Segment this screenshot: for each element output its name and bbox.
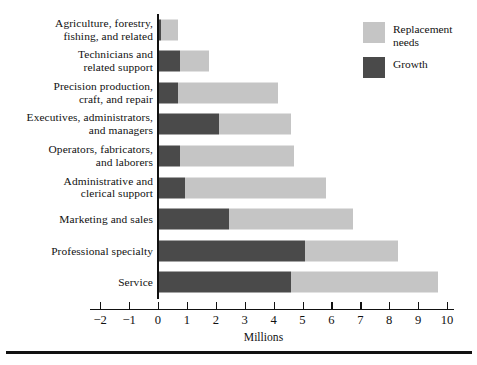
- x-axis-tick-label: 9: [403, 313, 433, 328]
- x-axis-tick: [158, 302, 159, 309]
- x-axis-tick: [360, 302, 361, 309]
- chart-bar-row: Executives, administrators, and managers: [0, 109, 477, 141]
- stacked-bar: [158, 114, 291, 135]
- x-axis-tick: [418, 302, 419, 309]
- bar-segment-growth: [158, 177, 185, 198]
- x-axis-tick: [245, 302, 246, 309]
- bar-segment-replacement-needs: [180, 146, 294, 167]
- x-axis-tick-label: 8: [374, 313, 404, 328]
- bar-segment-replacement-needs: [178, 82, 278, 103]
- category-label: Executives, administrators, and managers: [27, 112, 153, 138]
- x-axis-tick-label: −1: [114, 313, 144, 328]
- stacked-bar: [158, 209, 353, 230]
- chart-bar-row: Operators, fabricators, and laborers: [0, 140, 477, 172]
- stacked-bar: [158, 82, 278, 103]
- x-axis-tick-label: 6: [316, 313, 346, 328]
- bar-segment-replacement-needs: [291, 272, 438, 293]
- x-axis-tick: [331, 302, 332, 309]
- stacked-bar: [158, 51, 209, 72]
- bar-segment-growth: [158, 82, 178, 103]
- x-axis-tick: [216, 302, 217, 309]
- bar-segment-growth: [158, 272, 291, 293]
- legend-swatch-replacement: [363, 22, 385, 43]
- category-label: Administrative and clerical support: [64, 175, 153, 201]
- category-label: Professional specialty: [51, 244, 153, 257]
- x-axis-tick: [129, 302, 130, 309]
- x-axis-tick-label: −2: [85, 313, 115, 328]
- x-axis-tick: [447, 302, 448, 309]
- bar-segment-growth: [158, 114, 219, 135]
- category-label: Technicians and related support: [78, 49, 153, 75]
- x-axis-tick-label: 10: [432, 313, 462, 328]
- bar-segment-growth: [158, 240, 305, 261]
- stacked-bar: [158, 19, 178, 40]
- x-axis-tick: [303, 302, 304, 309]
- legend-swatch-growth: [363, 57, 385, 78]
- category-label: Agriculture, forestry, fishing, and rela…: [55, 17, 153, 43]
- category-label: Operators, fabricators, and laborers: [49, 143, 153, 169]
- x-axis-tick: [274, 302, 275, 309]
- legend-label: Replacement needs: [393, 22, 452, 48]
- x-axis-tick-label: 3: [230, 313, 260, 328]
- x-axis-tick: [389, 302, 390, 309]
- x-axis-tick-label: 5: [288, 313, 318, 328]
- y-axis-line: [157, 14, 159, 299]
- x-axis-tick-label: 4: [259, 313, 289, 328]
- chart-bar-row: Marketing and sales: [0, 203, 477, 235]
- x-axis-tick: [187, 302, 188, 309]
- chart-bar-row: Service: [0, 266, 477, 298]
- bar-segment-replacement-needs: [305, 240, 397, 261]
- chart-legend: Replacement needsGrowth: [363, 22, 473, 87]
- category-label: Service: [118, 276, 153, 289]
- stacked-bar: [158, 146, 294, 167]
- category-label: Marketing and sales: [59, 213, 153, 226]
- legend-item: Replacement needs: [363, 22, 473, 48]
- bar-segment-replacement-needs: [185, 177, 325, 198]
- bar-segment-replacement-needs: [180, 51, 209, 72]
- x-axis-tick-label: 1: [172, 313, 202, 328]
- x-axis-tick-label: 7: [345, 313, 375, 328]
- x-axis-tick-label: 0: [143, 313, 173, 328]
- chart-bar-row: Professional specialty: [0, 235, 477, 267]
- chart-figure: Agriculture, forestry, fishing, and rela…: [0, 0, 477, 365]
- stacked-bar: [158, 272, 438, 293]
- x-axis-title: Millions: [0, 331, 477, 344]
- bar-segment-growth: [158, 51, 180, 72]
- bar-segment-replacement-needs: [219, 114, 291, 135]
- x-axis-line: [90, 309, 454, 310]
- bar-segment-growth: [158, 146, 180, 167]
- x-axis-tick-label: 2: [201, 313, 231, 328]
- legend-label: Growth: [393, 57, 428, 71]
- legend-item: Growth: [363, 57, 473, 78]
- bottom-rule-divider: [6, 351, 472, 354]
- category-label: Precision production, craft, and repair: [53, 80, 153, 106]
- stacked-bar: [158, 240, 398, 261]
- x-axis-tick: [100, 302, 101, 309]
- bar-segment-growth: [158, 209, 229, 230]
- bar-segment-replacement-needs: [161, 19, 178, 40]
- stacked-bar: [158, 177, 326, 198]
- chart-bar-row: Administrative and clerical support: [0, 172, 477, 204]
- bar-segment-replacement-needs: [229, 209, 353, 230]
